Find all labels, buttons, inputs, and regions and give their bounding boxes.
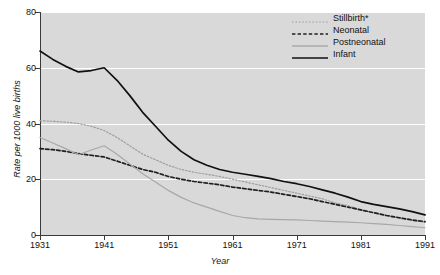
legend-swatch-icon	[292, 13, 328, 23]
y-axis-title: Rate per 1000 live births	[12, 54, 22, 204]
x-axis-title: Year	[0, 256, 440, 266]
mortality-rate-line-chart: 020406080 1931194119511961197119811991 Y…	[0, 0, 440, 275]
legend-swatch-icon	[292, 25, 328, 35]
legend-label: Postneonatal	[333, 37, 386, 47]
series-line-neonatal	[40, 149, 425, 222]
legend-swatch-icon	[292, 37, 328, 47]
legend-item-infant[interactable]: Infant	[292, 48, 424, 60]
series-line-infant	[40, 51, 425, 215]
legend-label: Neonatal	[333, 25, 369, 35]
legend-item-stillbirth[interactable]: Stillbirth*	[292, 12, 424, 24]
legend-swatch-icon	[292, 49, 328, 59]
legend-label: Stillbirth*	[333, 13, 369, 23]
legend-item-postneonatal[interactable]: Postneonatal	[292, 36, 424, 48]
legend-label: Infant	[333, 49, 356, 59]
chart-legend: Stillbirth*NeonatalPostneonatalInfant	[292, 12, 424, 60]
legend-item-neonatal[interactable]: Neonatal	[292, 24, 424, 36]
series-line-postneonatal	[40, 137, 425, 227]
